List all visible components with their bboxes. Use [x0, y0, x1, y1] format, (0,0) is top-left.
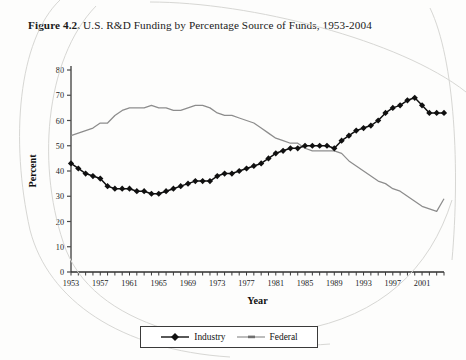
data-point-marker — [90, 173, 96, 179]
x-tick-label: 1973 — [209, 279, 225, 288]
data-point-marker — [119, 186, 125, 192]
x-tick-label: 1989 — [326, 279, 342, 288]
data-point-marker — [295, 145, 301, 151]
x-tick-label: 1985 — [297, 279, 313, 288]
y-tick-label: 80 — [56, 66, 64, 75]
figure-caption: U.S. R&D Funding by Percentage Source of… — [83, 19, 372, 31]
data-point-marker — [317, 143, 323, 149]
data-point-marker — [134, 188, 140, 194]
y-tick-label: 70 — [56, 91, 64, 100]
data-point-marker — [170, 186, 176, 192]
y-axis: 01020304050607080 — [56, 66, 71, 277]
chart-plot-area: 01020304050607080 1953195719611965196919… — [0, 52, 466, 312]
x-tick-label: 2001 — [414, 279, 430, 288]
data-point-marker — [178, 183, 184, 189]
data-point-marker — [251, 163, 257, 169]
legend-label-federal: Federal — [270, 332, 298, 342]
data-point-marker — [229, 170, 235, 176]
data-point-marker — [163, 188, 169, 194]
figure-title: Figure 4.2. U.S. R&D Funding by Percenta… — [28, 18, 448, 32]
data-point-marker — [200, 178, 206, 184]
x-axis-title: Year — [247, 295, 268, 306]
data-point-marker — [434, 110, 440, 116]
y-tick-label: 10 — [56, 243, 64, 252]
data-point-marker — [236, 168, 242, 174]
legend-label-industry: Industry — [194, 332, 225, 342]
data-series-group — [68, 95, 447, 212]
data-point-marker — [302, 143, 308, 149]
data-point-marker — [112, 186, 118, 192]
data-point-marker — [126, 186, 132, 192]
x-tick-label: 1993 — [355, 279, 371, 288]
x-tick-label: 1953 — [63, 279, 79, 288]
legend-marker-federal-icon — [236, 331, 266, 343]
data-point-marker — [192, 178, 198, 184]
data-point-marker — [141, 188, 147, 194]
data-point-marker — [221, 170, 227, 176]
y-tick-label: 0 — [60, 268, 64, 277]
data-point-marker — [324, 143, 330, 149]
figure-number: Figure 4.2. — [28, 19, 80, 31]
data-point-marker — [360, 125, 366, 131]
y-tick-label: 20 — [56, 218, 64, 227]
x-axis: 1953195719611965196919731977198119851989… — [63, 272, 444, 288]
y-axis-title: Percent — [27, 154, 38, 188]
series-federal — [71, 105, 444, 211]
data-point-marker — [243, 165, 249, 171]
data-point-marker — [185, 181, 191, 187]
x-tick-label: 1997 — [385, 279, 401, 288]
y-tick-label: 60 — [56, 117, 64, 126]
data-point-marker — [287, 145, 293, 151]
y-tick-label: 40 — [56, 167, 64, 176]
x-tick-label: 1969 — [180, 279, 196, 288]
data-point-marker — [156, 191, 162, 197]
data-point-marker — [441, 110, 447, 116]
x-tick-label: 1957 — [92, 279, 108, 288]
x-tick-label: 1961 — [121, 279, 137, 288]
y-tick-label: 30 — [56, 192, 64, 201]
legend-item-federal: Federal — [236, 331, 298, 343]
chart-legend: Industry Federal — [140, 326, 318, 348]
x-tick-label: 1981 — [268, 279, 284, 288]
data-point-marker — [309, 143, 315, 149]
x-tick-label: 1965 — [151, 279, 167, 288]
x-tick-label: 1977 — [238, 279, 254, 288]
y-tick-label: 50 — [56, 142, 64, 151]
data-point-marker — [148, 191, 154, 197]
data-point-marker — [280, 148, 286, 154]
legend-item-industry: Industry — [160, 331, 225, 343]
legend-marker-industry-icon — [160, 331, 190, 343]
